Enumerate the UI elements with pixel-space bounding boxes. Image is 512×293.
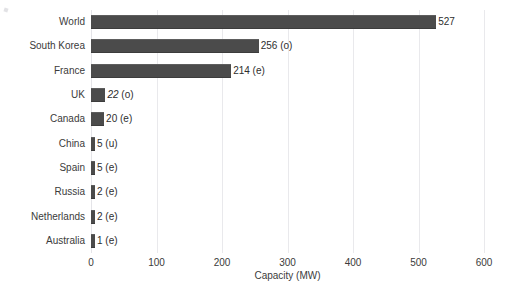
bar-value-number: 527 <box>438 16 455 27</box>
bar-value-number: 256 <box>261 40 278 51</box>
gridline-600 <box>484 10 485 253</box>
bar-value-note: (e) <box>117 113 132 124</box>
category-label: Russia <box>54 181 85 203</box>
bar-value-note: (e) <box>250 65 265 76</box>
category-label: Australia <box>46 230 85 252</box>
bar-value-note: (o) <box>277 40 292 51</box>
bar-row: Russia2 (e) <box>91 181 484 203</box>
category-label: Netherlands <box>31 206 85 228</box>
x-tick-label: 600 <box>476 257 493 268</box>
x-tick-label: 0 <box>88 257 94 268</box>
bar-value-label: 214 (e) <box>231 60 265 82</box>
bar-value-note: (e) <box>103 186 118 197</box>
bar-value-note: (e) <box>103 211 118 222</box>
bar-value-label: 527 <box>436 11 455 33</box>
category-label: China <box>59 133 85 155</box>
bar-row: South Korea256 (o) <box>91 35 484 57</box>
bar-row: Australia1 (e) <box>91 230 484 252</box>
bar-row: China5 (u) <box>91 133 484 155</box>
image-artifact-speck <box>3 7 8 12</box>
bar-value-label: 5 (u) <box>95 133 118 155</box>
bar-value-note: (o) <box>119 89 134 100</box>
bar-value-number: 214 <box>233 65 250 76</box>
category-label: Spain <box>59 157 85 179</box>
bar-row: Netherlands2 (e) <box>91 206 484 228</box>
bar-value-number: 22 <box>107 89 118 100</box>
category-label: South Korea <box>29 35 85 57</box>
bar-value-label: 20 (e) <box>104 108 132 130</box>
plot-area: World527South Korea256 (o)France214 (e)U… <box>91 10 484 253</box>
bar-value-number: 20 <box>106 113 117 124</box>
bar-row: Canada20 (e) <box>91 108 484 130</box>
x-axis-title: Capacity (MW) <box>91 270 484 281</box>
bar <box>91 88 105 102</box>
bar-value-label: 256 (o) <box>259 35 293 57</box>
bar-value-note: (u) <box>103 138 118 149</box>
x-tick-label: 400 <box>345 257 362 268</box>
bar-value-note: (e) <box>103 235 118 246</box>
bar-row: UK22 (o) <box>91 84 484 106</box>
bar-row: France214 (e) <box>91 60 484 82</box>
bar <box>91 15 436 29</box>
x-tick-label: 100 <box>148 257 165 268</box>
bar-value-label: 1 (e) <box>95 230 118 252</box>
category-label: UK <box>71 84 85 106</box>
bar-value-label: 2 (e) <box>95 181 118 203</box>
category-label: France <box>54 60 85 82</box>
bar-value-label: 2 (e) <box>95 206 118 228</box>
bar-row: Spain5 (e) <box>91 157 484 179</box>
bar-row: World527 <box>91 11 484 33</box>
bar <box>91 39 259 53</box>
bar-chart: World527South Korea256 (o)France214 (e)U… <box>0 0 512 293</box>
x-tick-label: 500 <box>410 257 427 268</box>
bar-value-label: 22 (o) <box>105 84 133 106</box>
x-tick-label: 200 <box>214 257 231 268</box>
bar-value-label: 5 (e) <box>95 157 118 179</box>
bar <box>91 112 104 126</box>
bar <box>91 64 231 78</box>
x-tick-label: 300 <box>279 257 296 268</box>
bar-value-note: (e) <box>103 162 118 173</box>
category-label: World <box>59 11 85 33</box>
category-label: Canada <box>50 108 85 130</box>
